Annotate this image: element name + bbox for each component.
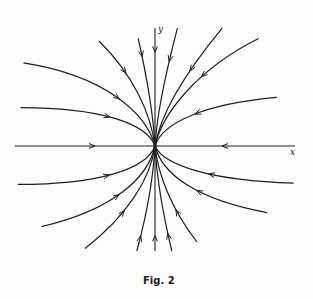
y-axis-label: y (157, 24, 164, 34)
origin-node (153, 141, 156, 151)
figure-caption: Fig. 2 (143, 275, 175, 286)
trajectory-ll-3 (85, 146, 155, 248)
trajectory-ul-3 (99, 41, 155, 146)
trajectory-ur-1 (155, 28, 177, 146)
trajectories (15, 28, 295, 251)
phase-portrait: y x Fig. 2 (0, 0, 313, 299)
trajectory-ul-1 (23, 63, 155, 146)
trajectory-lr-4 (155, 146, 294, 183)
trajectory-ul-2 (21, 108, 155, 146)
trajectory-ll-2 (42, 146, 155, 227)
trajectory-ur-4 (155, 97, 277, 146)
x-axis-label: x (290, 147, 295, 157)
trajectory-ur-2 (155, 28, 222, 146)
trajectory-ll-1 (18, 146, 155, 184)
trajectory-ll-4 (137, 146, 155, 251)
